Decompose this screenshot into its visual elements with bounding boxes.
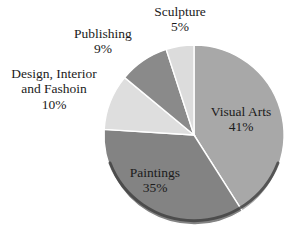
slice-label-visual-arts-value: 41% bbox=[199, 119, 283, 134]
slice-label-publishing-value: 9% bbox=[56, 41, 150, 56]
slice-label-design-name-line2: and Fashoin bbox=[2, 81, 106, 96]
slice-label-paintings-name: Paintings bbox=[113, 165, 197, 180]
slice-label-paintings-value: 35% bbox=[113, 180, 197, 195]
slice-label-design-value: 10% bbox=[2, 97, 106, 112]
slice-label-sculpture-name: Sculpture bbox=[133, 4, 227, 19]
pie-chart-figure: Sculpture 5% Publishing 9% Design, Inter… bbox=[0, 0, 295, 249]
slice-label-paintings: Paintings 35% bbox=[113, 165, 197, 195]
slice-label-design-interior-fashoin: Design, Interior and Fashoin 10% bbox=[2, 66, 106, 112]
slice-label-design-name-line1: Design, Interior bbox=[2, 66, 106, 81]
slice-label-visual-arts-name: Visual Arts bbox=[199, 104, 283, 119]
slice-label-visual-arts: Visual Arts 41% bbox=[199, 104, 283, 134]
slice-label-publishing: Publishing 9% bbox=[56, 26, 150, 56]
slice-label-publishing-name: Publishing bbox=[56, 26, 150, 41]
pie-slice-group bbox=[104, 45, 284, 225]
